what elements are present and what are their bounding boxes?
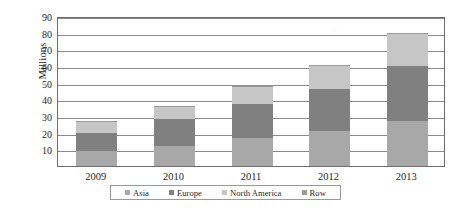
y-tick-label: 70 xyxy=(30,45,52,56)
legend-item[interactable]: Asia xyxy=(125,188,149,198)
bar-group[interactable] xyxy=(232,17,273,166)
y-tick-label: 50 xyxy=(30,79,52,90)
y-tickmark xyxy=(57,118,58,119)
x-tick-label: 2012 xyxy=(290,170,368,184)
y-tick-label: 60 xyxy=(30,62,52,73)
x-tick-label: 2011 xyxy=(212,170,290,184)
bar-segment[interactable] xyxy=(309,131,350,166)
bar-segment[interactable] xyxy=(154,146,195,166)
y-tickmark xyxy=(57,51,58,52)
legend-swatch-icon xyxy=(169,190,174,195)
bar-group[interactable] xyxy=(309,17,350,166)
y-tickmark xyxy=(57,135,58,136)
x-tick-label: 2013 xyxy=(367,170,445,184)
bar-segment[interactable] xyxy=(154,119,195,146)
y-tick-label: 20 xyxy=(30,129,52,140)
x-axis-tick-labels: 20092010201120122013 xyxy=(57,170,445,186)
legend-label: Row xyxy=(310,188,326,198)
x-tick-label: 2009 xyxy=(57,170,135,184)
bar-segment[interactable] xyxy=(232,138,273,166)
plot-area xyxy=(57,17,445,167)
bar-segment[interactable] xyxy=(76,133,117,151)
legend-swatch-icon xyxy=(125,190,130,195)
legend-item[interactable]: North America xyxy=(222,188,281,198)
legend-item[interactable]: Europe xyxy=(169,188,202,198)
y-tickmark xyxy=(57,35,58,36)
bar-segment[interactable] xyxy=(387,33,428,35)
y-tickmark xyxy=(57,18,58,19)
y-tickmark xyxy=(57,85,58,86)
bar-segment[interactable] xyxy=(387,34,428,66)
legend-label: North America xyxy=(230,188,281,198)
bar-segment[interactable] xyxy=(76,121,117,133)
y-tickmark xyxy=(57,101,58,102)
legend-swatch-icon xyxy=(302,190,307,195)
bar-segment[interactable] xyxy=(154,107,195,120)
bar-segment[interactable] xyxy=(309,65,350,66)
legend-label: Europe xyxy=(177,188,202,198)
x-tick-label: 2010 xyxy=(135,170,213,184)
y-tick-label: 40 xyxy=(30,95,52,106)
y-tick-label: 80 xyxy=(30,29,52,40)
y-tickmark xyxy=(57,151,58,152)
bar-segment[interactable] xyxy=(232,104,273,137)
bar-segment[interactable] xyxy=(232,87,273,105)
y-axis-tick-labels: 102030405060708090 xyxy=(30,11,52,169)
bar-segment[interactable] xyxy=(387,66,428,121)
bar-segment[interactable] xyxy=(309,65,350,89)
bar-group[interactable] xyxy=(76,17,117,166)
stacked-bar-chart: Millions 102030405060708090 200920102011… xyxy=(0,0,452,213)
y-tickmark xyxy=(57,68,58,69)
bar-group[interactable] xyxy=(154,17,195,166)
bar-segment[interactable] xyxy=(387,121,428,166)
legend-item[interactable]: Row xyxy=(302,188,326,198)
y-tick-label: 90 xyxy=(30,12,52,23)
y-tick-label: 30 xyxy=(30,112,52,123)
bar-segment[interactable] xyxy=(232,86,273,87)
legend-swatch-icon xyxy=(222,190,227,195)
y-tick-label: 10 xyxy=(30,145,52,156)
legend-label: Asia xyxy=(133,188,149,198)
bar-segment[interactable] xyxy=(76,151,117,166)
bar-group[interactable] xyxy=(387,17,428,166)
chart-legend: AsiaEuropeNorth AmericaRow xyxy=(110,185,341,200)
bar-segment[interactable] xyxy=(309,89,350,131)
